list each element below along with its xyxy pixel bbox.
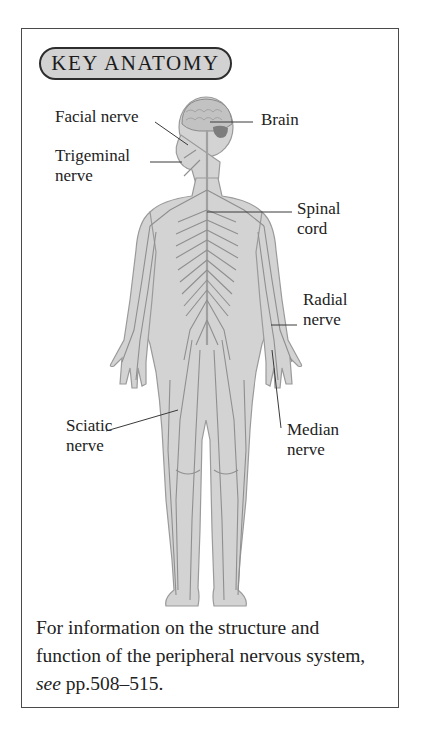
label-sciatic-nerve: Sciatic nerve xyxy=(66,416,112,456)
label-radial-nerve: Radial nerve xyxy=(303,290,347,330)
caption-pages: pp.508–515. xyxy=(61,673,163,694)
label-brain: Brain xyxy=(261,110,299,130)
caption-text: For information on the structure and fun… xyxy=(36,617,365,666)
label-facial-nerve: Facial nerve xyxy=(55,107,139,127)
cross-reference-caption: For information on the structure and fun… xyxy=(36,614,386,698)
label-spinal-cord: Spinal cord xyxy=(297,199,340,239)
label-median-nerve: Median nerve xyxy=(287,420,339,460)
caption-see: see xyxy=(36,673,61,694)
label-trigeminal-nerve: Trigeminal nerve xyxy=(55,146,130,186)
